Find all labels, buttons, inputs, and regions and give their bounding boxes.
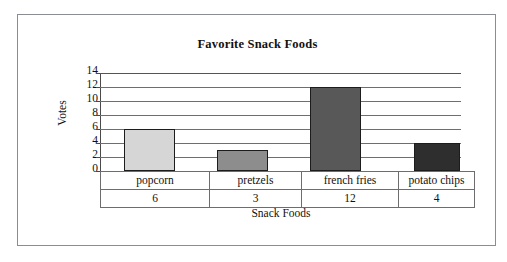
- bar-chart: Favorite Snack Foods Votes 14 12 10 8 6 …: [18, 15, 497, 247]
- gridline-8: [100, 115, 461, 116]
- page-border-frame: Favorite Snack Foods Votes 14 12 10 8 6 …: [17, 14, 496, 246]
- y-tick-label-8: 8: [66, 107, 98, 118]
- data-table: popcorn pretzels french fries potato chi…: [100, 171, 475, 208]
- axis-tick-2: [96, 157, 100, 158]
- y-axis-tick-labels: 14 12 10 8 6 4 2 0: [66, 65, 98, 169]
- gridline-10: [100, 101, 461, 102]
- axis-tick-6: [96, 129, 100, 130]
- bar-french-fries[interactable]: [310, 87, 361, 171]
- axis-tick-12: [96, 87, 100, 88]
- axis-tick-8: [96, 115, 100, 116]
- table-cell-value-potato-chips: 4: [399, 190, 475, 208]
- bar-popcorn[interactable]: [124, 129, 175, 171]
- table-cell-label-pretzels: pretzels: [210, 172, 302, 190]
- y-tick-label-12: 12: [66, 79, 98, 90]
- y-tick-label-2: 2: [66, 149, 98, 160]
- y-tick-label-4: 4: [66, 135, 98, 146]
- y-tick-label-6: 6: [66, 121, 98, 132]
- axis-tick-4: [96, 143, 100, 144]
- table-cell-label-french-fries: french fries: [302, 172, 399, 190]
- x-axis-title: Snack Foods: [100, 207, 462, 219]
- table-cell-label-popcorn: popcorn: [101, 172, 210, 190]
- chart-title: Favorite Snack Foods: [18, 37, 497, 52]
- table-row-labels: popcorn pretzels french fries potato chi…: [101, 172, 475, 190]
- axis-tick-14: [96, 73, 100, 74]
- y-tick-label-10: 10: [66, 93, 98, 104]
- y-tick-label-0: 0: [66, 163, 98, 174]
- plot-area: [100, 73, 461, 171]
- gridline-12: [100, 87, 461, 88]
- table-cell-value-popcorn: 6: [101, 190, 210, 208]
- y-tick-label-14: 14: [66, 65, 98, 76]
- bar-potato-chips[interactable]: [414, 143, 460, 171]
- table-cell-value-french-fries: 12: [302, 190, 399, 208]
- bar-pretzels[interactable]: [217, 150, 268, 171]
- axis-tick-10: [96, 101, 100, 102]
- table-row-values: 6 3 12 4: [101, 190, 475, 208]
- table-cell-label-potato-chips: potato chips: [399, 172, 475, 190]
- gridline-14: [100, 73, 461, 74]
- table-cell-value-pretzels: 3: [210, 190, 302, 208]
